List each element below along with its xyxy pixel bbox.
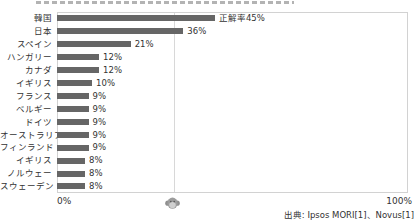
row-track: 8%: [57, 154, 408, 167]
bar-value-label: 8%: [89, 182, 103, 191]
row-track: 10%: [57, 77, 408, 90]
row-track: 21%: [57, 38, 408, 51]
row-track: 12%: [57, 51, 408, 64]
row-track: 9%: [57, 141, 408, 154]
bar-value-label: 9%: [93, 92, 107, 101]
bar: [57, 54, 99, 60]
source-citation: 出典: Ipsos MORI[1]、Novus[1]: [284, 208, 414, 220]
row-label: イギリス: [0, 156, 57, 165]
bar: [57, 80, 92, 86]
bar-value-label: 21%: [135, 40, 154, 49]
table-row: ハンガリー 12%: [0, 51, 408, 64]
bar-value-label: 9%: [93, 118, 107, 127]
bar: [57, 132, 89, 138]
row-label: ノルウェー: [0, 169, 57, 178]
table-row: ノルウェー 8%: [0, 167, 408, 180]
bar: [57, 158, 85, 164]
bar: [57, 171, 85, 177]
bar: [57, 41, 131, 47]
table-row: スウェーデン 8%: [0, 180, 408, 193]
table-row: オーストラリア 9%: [0, 128, 408, 141]
table-row: フィンランド 9%: [0, 141, 408, 154]
row-track: 9%: [57, 102, 408, 115]
bar: [57, 28, 183, 34]
row-label: ベルギー: [0, 105, 57, 114]
row-label: イギリス: [0, 79, 57, 88]
table-row: ドイツ 9%: [0, 115, 408, 128]
x-axis-max-label: 100%: [386, 196, 412, 206]
row-track: 9%: [57, 128, 408, 141]
table-row: フランス 9%: [0, 90, 408, 103]
row-label: スウェーデン: [0, 182, 57, 191]
x-axis-min-label: 0%: [57, 196, 71, 206]
bar: [57, 145, 89, 151]
table-row: イギリス 10%: [0, 77, 408, 90]
row-track: 正解率45%: [57, 12, 408, 25]
bar: [57, 15, 215, 21]
bar-value-label: 12%: [103, 53, 122, 62]
row-track: 36%: [57, 25, 408, 38]
table-row: 日本 36%: [0, 25, 408, 38]
bar: [57, 106, 89, 112]
bar-value-label: 9%: [93, 131, 107, 140]
bar: [57, 93, 89, 99]
table-row: スペイン 21%: [0, 38, 408, 51]
row-label: 韓国: [0, 14, 57, 23]
row-label: スペイン: [0, 40, 57, 49]
bar-value-label: 8%: [89, 169, 103, 178]
bar-value-label: 9%: [93, 143, 107, 152]
bar: [57, 183, 85, 189]
row-track: 9%: [57, 115, 408, 128]
chart-rows: 韓国 正解率45% 日本 36% スペイン 21% ハンガリー 12% カナダ …: [0, 12, 408, 193]
row-label: 日本: [0, 27, 57, 36]
cropped-title-text: [36, 1, 294, 4]
row-label: フランス: [0, 92, 57, 101]
table-row: 韓国 正解率45%: [0, 12, 408, 25]
row-track: 8%: [57, 167, 408, 180]
row-label: カナダ: [0, 66, 57, 75]
bar-value-label: 8%: [89, 156, 103, 165]
chimp-face-icon: [164, 197, 181, 210]
row-label: ハンガリー: [0, 53, 57, 62]
horizontal-bar-chart: 韓国 正解率45% 日本 36% スペイン 21% ハンガリー 12% カナダ …: [0, 0, 420, 221]
bar: [57, 67, 99, 73]
bar: [57, 119, 89, 125]
row-track: 9%: [57, 90, 408, 103]
row-track: 8%: [57, 180, 408, 193]
table-row: イギリス 8%: [0, 154, 408, 167]
table-row: ベルギー 9%: [0, 102, 408, 115]
bar-value-label: 12%: [103, 66, 122, 75]
row-track: 12%: [57, 64, 408, 77]
row-label: ドイツ: [0, 118, 57, 127]
bar-value-label: 36%: [187, 27, 206, 36]
table-row: カナダ 12%: [0, 64, 408, 77]
row-label: オーストラリア: [0, 131, 57, 140]
row-label: フィンランド: [0, 143, 57, 152]
bar-value-label: 9%: [93, 105, 107, 114]
bar-value-label: 10%: [96, 79, 115, 88]
bar-value-label: 正解率45%: [219, 14, 265, 23]
